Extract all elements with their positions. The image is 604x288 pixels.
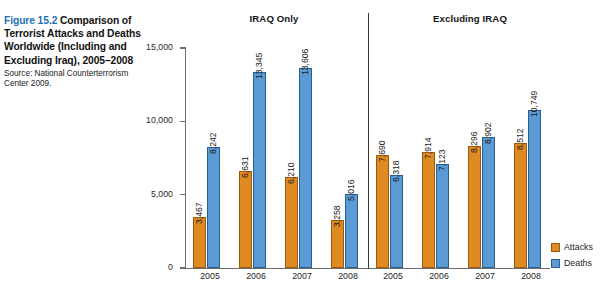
bar-value-label: 13,606 bbox=[300, 49, 310, 75]
y-axis-tick-label: 0 bbox=[133, 262, 173, 272]
bar-value-label: 6,210 bbox=[286, 162, 296, 184]
y-axis-tick-label-wrap: 10,000 bbox=[133, 115, 177, 125]
bar-value-label: 6,318 bbox=[391, 161, 401, 183]
bar-attacks-2006 bbox=[422, 152, 435, 268]
x-axis-label: 2008 bbox=[508, 271, 554, 281]
y-axis-tick-label-wrap: 0 bbox=[133, 262, 177, 272]
legend-label: Attacks bbox=[564, 242, 593, 252]
x-axis-label: 2005 bbox=[370, 271, 416, 281]
y-axis-line bbox=[185, 47, 186, 269]
y-axis-tick-label: 15,000 bbox=[133, 42, 173, 52]
x-axis-label: 2005 bbox=[187, 271, 233, 281]
bar-value-label: 8,296 bbox=[469, 132, 479, 154]
x-axis-label: 2006 bbox=[416, 271, 462, 281]
bar-deaths-2005 bbox=[207, 147, 220, 268]
bar-value-label: 5,016 bbox=[346, 180, 356, 202]
bar-attacks-2008 bbox=[514, 143, 527, 268]
bar-value-label: 8,902 bbox=[483, 123, 493, 145]
x-axis-label: 2007 bbox=[462, 271, 508, 281]
figure-container: Figure 15.2 Comparison of Terrorist Atta… bbox=[0, 0, 604, 288]
bar-attacks-2007 bbox=[468, 146, 481, 268]
bar-value-label: 10,749 bbox=[529, 91, 539, 117]
bar-attacks-2005 bbox=[193, 217, 206, 268]
y-axis-tick-label-wrap: 5,000 bbox=[133, 189, 177, 199]
bar-value-label: 8,242 bbox=[208, 133, 218, 155]
bar-value-label: 7,690 bbox=[377, 141, 387, 163]
y-axis-tick bbox=[180, 121, 185, 122]
bar-deaths-2008 bbox=[528, 110, 541, 268]
y-axis-tick-label: 5,000 bbox=[133, 189, 173, 199]
y-axis-tick-label: 10,000 bbox=[133, 115, 173, 125]
legend-swatch-icon bbox=[551, 259, 560, 268]
chart-plot-area: 05,00010,00015,000 3,4678,2426,63113,345… bbox=[0, 0, 604, 288]
bar-attacks-2008 bbox=[331, 220, 344, 268]
legend-swatch-icon bbox=[551, 243, 560, 252]
legend-item-attacks: Attacks bbox=[551, 239, 593, 255]
bar-value-label: 7,123 bbox=[437, 149, 447, 171]
x-axis-label: 2008 bbox=[325, 271, 371, 281]
bar-attacks-2007 bbox=[285, 177, 298, 268]
bar-deaths-2007 bbox=[299, 68, 312, 268]
bar-value-label: 3,258 bbox=[332, 206, 342, 228]
x-axis-label: 2007 bbox=[279, 271, 325, 281]
legend-label: Deaths bbox=[564, 258, 592, 268]
bar-deaths-2006 bbox=[436, 164, 449, 268]
y-axis-tick bbox=[180, 194, 185, 195]
legend-item-deaths: Deaths bbox=[551, 255, 593, 271]
bar-attacks-2005 bbox=[376, 155, 389, 268]
bar-deaths-2006 bbox=[253, 72, 266, 268]
bar-value-label: 8,512 bbox=[515, 129, 525, 151]
panel-divider-line bbox=[368, 13, 369, 269]
y-axis-tick bbox=[180, 47, 185, 48]
y-axis-tick-label-wrap: 15,000 bbox=[133, 42, 177, 52]
bar-deaths-2005 bbox=[390, 175, 403, 268]
bar-deaths-2007 bbox=[482, 137, 495, 268]
bar-value-label: 3,467 bbox=[194, 203, 204, 225]
bar-value-label: 13,345 bbox=[254, 53, 264, 79]
x-axis-label: 2006 bbox=[233, 271, 279, 281]
bar-attacks-2006 bbox=[239, 171, 252, 268]
y-axis-tick bbox=[180, 267, 185, 268]
bar-value-label: 7,914 bbox=[423, 137, 433, 159]
bar-deaths-2008 bbox=[345, 194, 358, 268]
chart-legend: AttacksDeaths bbox=[551, 239, 593, 271]
bar-value-label: 6,631 bbox=[240, 156, 250, 178]
